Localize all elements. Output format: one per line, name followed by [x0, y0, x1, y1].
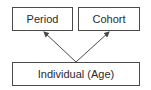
arrow-individual-to-cohort: [76, 32, 109, 62]
arrow-individual-to-period: [44, 32, 76, 62]
edges-layer: [0, 0, 151, 90]
